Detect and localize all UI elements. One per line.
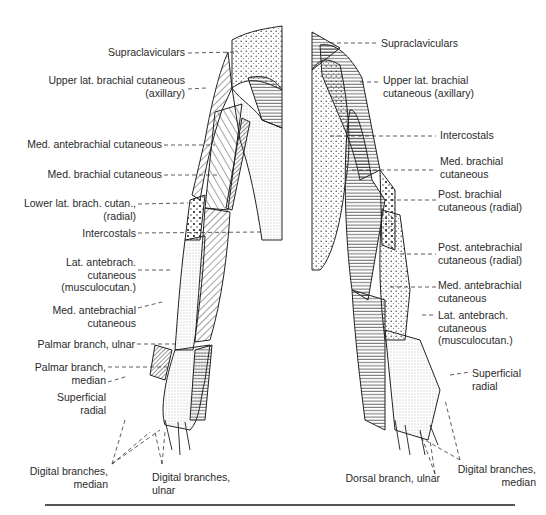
label-med-antebrachial-left: Med. antebrachial cutaneous [10, 138, 162, 151]
label-superficial-radial-right: Superficialradial [472, 367, 546, 392]
label-lat-antebrach-left: Lat. antebrach.cutaneous(musculocutan.) [0, 256, 136, 294]
label-post-antebrachial-right: Post. antebrachialcutaneous (radial) [438, 241, 546, 266]
label-digital-ulnar-left: Digital branches,ulnar [152, 471, 272, 496]
label-dorsal-ulnar-right: Dorsal branch, ulnar [330, 472, 440, 485]
label-palmar-median-left: Palmar branch,median [0, 361, 106, 386]
label-superficial-radial-left: Superficialradial [0, 391, 106, 416]
label-palmar-ulnar-left: Palmar branch, ulnar [0, 338, 135, 351]
bottom-rule [45, 504, 515, 506]
dermatome-figure: Supraclaviculars Upper lat. brachial cut… [0, 0, 546, 515]
label-digital-median-right: Digital branches,median [440, 463, 536, 488]
label-upper-lat-brachial-left: Upper lat. brachial cutaneous(axillary) [30, 74, 185, 99]
label-supraclaviculars-right: Supraclaviculars [381, 37, 541, 50]
label-med-antebrachial-2-left: Med. antebrachialcutaneous [0, 304, 136, 329]
label-intercostals-left: Intercostals [0, 227, 136, 240]
label-med-brachial-right: Med. brachialcutaneous [440, 155, 540, 180]
label-med-antebrachial-right: Med. antebrachialcutaneous [438, 279, 546, 304]
label-intercostals-right: Intercostals [440, 129, 540, 142]
label-supraclaviculars-left: Supraclaviculars [30, 46, 185, 59]
label-post-brachial-right: Post. brachialcutaneous (radial) [438, 188, 546, 213]
label-med-brachial-left: Med. brachial cutaneous [10, 168, 162, 181]
label-digital-median-left: Digital branches,median [0, 465, 108, 490]
label-lat-antebrach-right: Lat. antebrach.cutaneous(musculocutan.) [438, 309, 546, 347]
label-upper-lat-brachial-right: Upper lat. brachialcutaneous (axillary) [383, 74, 543, 99]
label-lower-lat-brach-left: Lower lat. brach. cutan.,(radial) [0, 197, 136, 222]
